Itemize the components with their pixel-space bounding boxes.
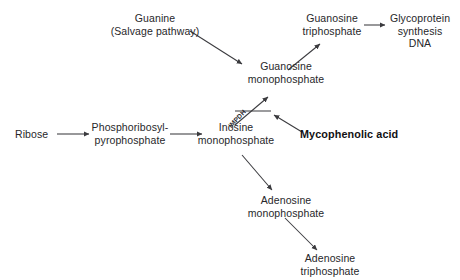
node-ribose: Ribose: [15, 128, 59, 141]
edge-amp-to-atp: [285, 218, 317, 250]
node-gtp: Guanosine triphosphate: [294, 12, 370, 37]
node-imp: Inosine monophosphate: [194, 121, 278, 146]
edge-imp-to-amp: [242, 155, 272, 190]
edge-mycophenolic-to-impdh: [274, 115, 302, 132]
node-glycoprotein: Glycoprotein synthesis DNA: [383, 12, 457, 50]
node-gmp: Guanosine monophosphate: [236, 60, 336, 85]
node-guanine: Guanine (Salvage pathway): [96, 12, 214, 37]
node-amp: Adenosine monophosphate: [236, 194, 336, 219]
node-mycophenolic-acid: Mycophenolic acid: [300, 128, 412, 141]
node-atp: Adenosine triphosphate: [283, 252, 377, 277]
pathway-diagram: Guanine (Salvage pathway) Ribose Phospho…: [0, 0, 460, 280]
node-prpp: Phosphoribosyl- pyrophosphate: [84, 121, 176, 146]
